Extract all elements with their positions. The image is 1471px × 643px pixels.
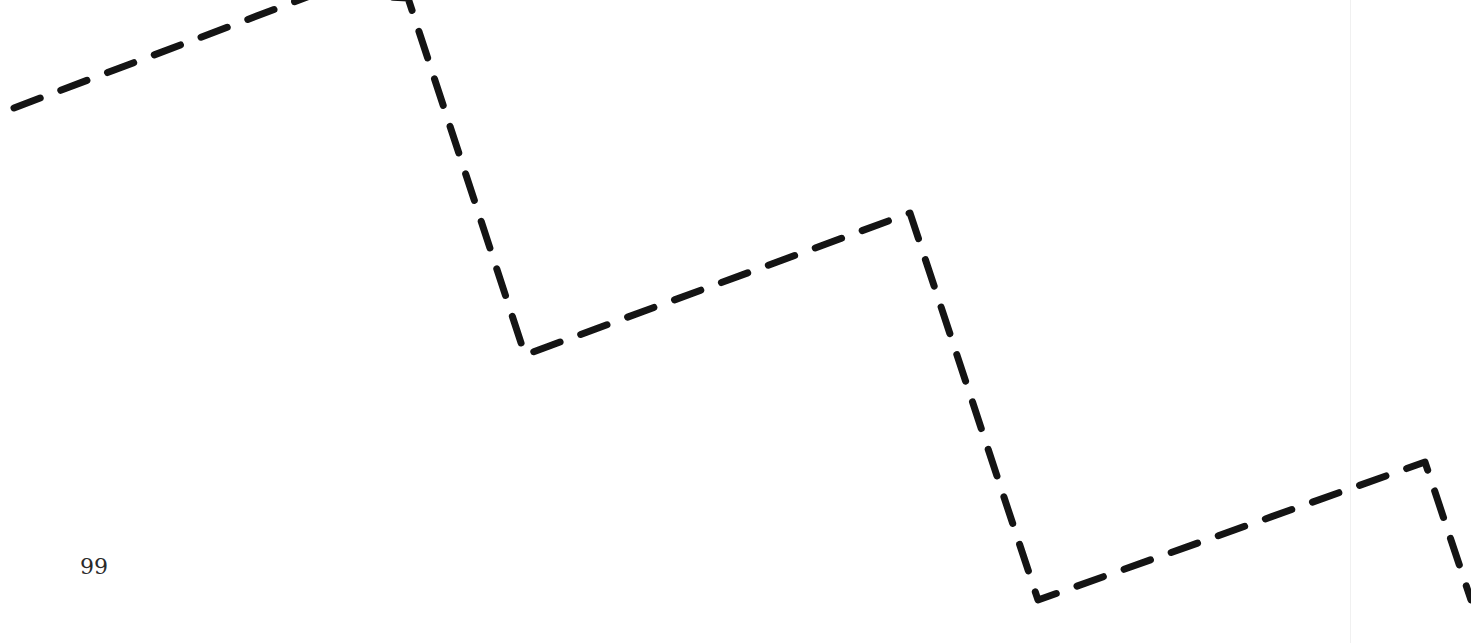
zigzag-path [14,0,1471,600]
page-number: 99 [80,554,108,579]
document-page: 99 [0,0,1471,643]
dashed-zigzag-line [0,0,1471,643]
